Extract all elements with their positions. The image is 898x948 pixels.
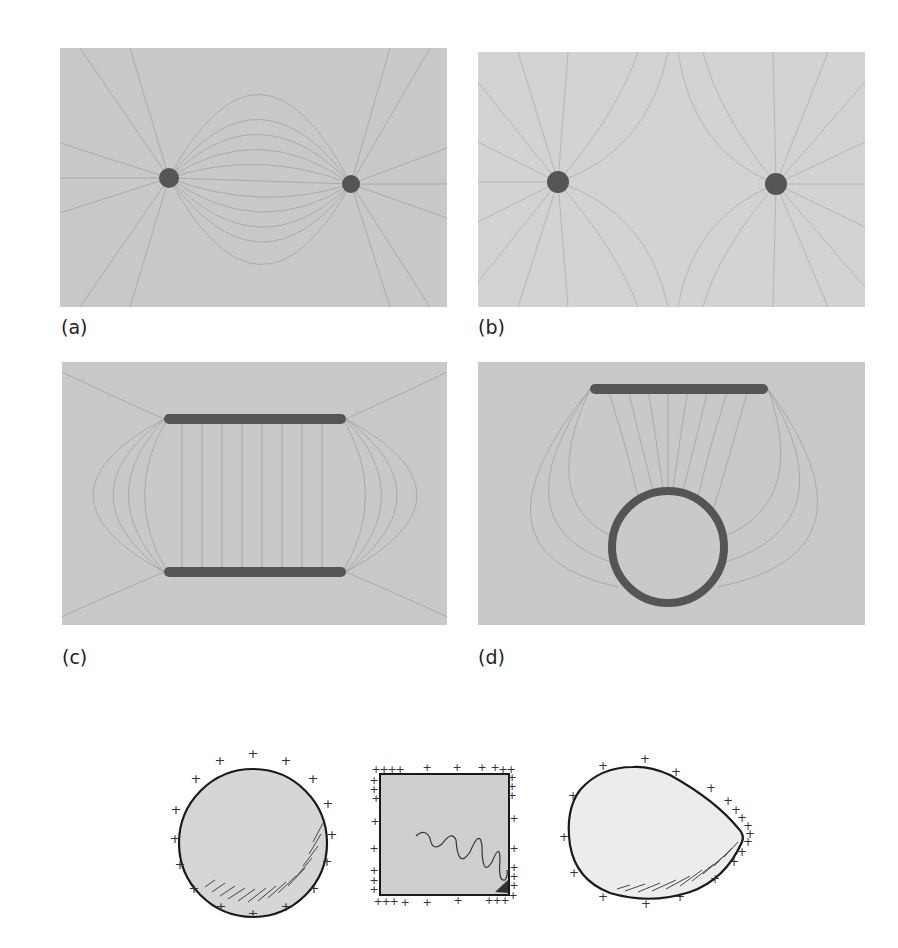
panel-label-c: (c) [62,648,87,667]
svg-text:+: + [729,855,739,869]
svg-text:+: + [175,857,186,872]
svg-text:+: + [189,881,200,896]
svg-text:+: + [598,890,608,904]
dipole-field-lines [60,48,447,307]
charged-ring [612,491,724,603]
svg-text:+: + [371,792,380,805]
svg-text:+: + [248,746,259,761]
svg-text:+: + [675,890,685,904]
svg-text:+: + [215,753,226,768]
panel-label-b: (b) [478,318,505,337]
like-charges-field-lines [478,52,865,307]
charged-plate [590,384,768,394]
svg-text:+: + [706,781,716,795]
svg-text:+: + [369,842,378,855]
field-panel-b [478,52,865,307]
svg-text:+: + [191,771,202,786]
svg-text:+: + [327,827,338,842]
panel-label-d: (d) [478,648,505,667]
svg-text:+: + [395,763,404,776]
point-charge-right [765,173,787,195]
svg-text:+: + [508,889,517,902]
field-panel-a [60,48,447,307]
svg-text:+: + [322,854,333,869]
circle-conductor: + + + + + + + + + + + + + + + + [170,746,338,921]
svg-text:+: + [452,761,461,774]
svg-text:+: + [509,812,518,825]
svg-text:+: + [453,894,462,907]
svg-text:+: + [569,866,579,880]
conductor-charge-distribution: + + + + + + + + + + + + + + + + + + + + … [0,700,898,940]
square-conductor: + + + + + + + + + + + + + + + + + + + + … [369,761,518,909]
svg-text:+: + [281,899,292,914]
svg-text:+: + [370,815,379,828]
svg-text:+: + [170,831,181,846]
svg-text:+: + [710,872,720,886]
svg-text:+: + [507,789,516,802]
svg-text:+: + [477,761,486,774]
panel-label-a: (a) [61,318,87,337]
field-panel-d [478,362,865,625]
svg-text:+: + [171,802,182,817]
svg-text:+: + [400,896,409,909]
svg-text:+: + [640,752,650,766]
svg-text:+: + [568,789,578,803]
svg-text:+: + [422,896,431,909]
svg-text:+: + [559,830,569,844]
svg-text:+: + [598,759,608,773]
svg-text:+: + [308,771,319,786]
svg-text:+: + [216,899,227,914]
parallel-plates-field-lines [62,362,447,625]
svg-text:+: + [641,897,651,911]
svg-text:+: + [309,881,320,896]
svg-text:+: + [281,753,292,768]
svg-text:+: + [422,761,431,774]
positive-plate [164,414,346,424]
field-panel-c [62,362,447,625]
svg-text:+: + [509,842,518,855]
point-charge-right [342,175,360,193]
svg-text:+: + [671,765,681,779]
svg-text:+: + [500,894,509,907]
point-charge-left [159,168,179,188]
svg-text:+: + [389,895,398,908]
teardrop-conductor: + + + + + + + + + + + + + + + + + + + [559,752,755,911]
plate-ring-field-lines [478,362,865,625]
point-charge-left [547,171,569,193]
negative-plate [164,567,346,577]
svg-text:+: + [248,906,259,921]
svg-text:+: + [323,796,334,811]
